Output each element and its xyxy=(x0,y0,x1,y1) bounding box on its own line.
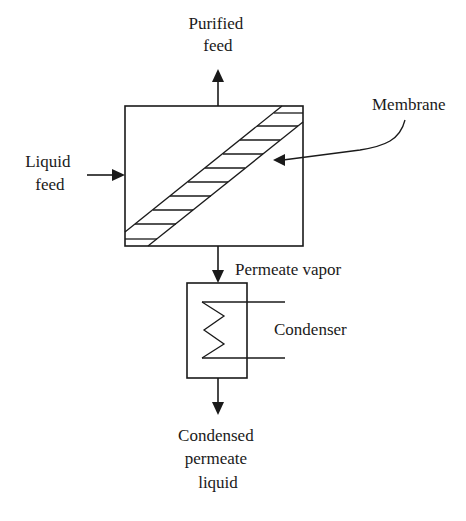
purified-feed-arrow xyxy=(212,69,224,106)
arrowhead-up-icon xyxy=(212,69,224,82)
membrane-band xyxy=(125,106,303,246)
liquid-feed-label: Liquid feed xyxy=(25,152,75,194)
condenser-label: Condenser xyxy=(274,320,347,339)
arrowhead-down-icon xyxy=(212,270,224,283)
arrowhead-left-icon xyxy=(273,154,285,166)
condenser-coil-icon xyxy=(202,302,285,358)
permeate-vapor-label: Permeate vapor xyxy=(235,260,342,279)
liquid-feed-arrow xyxy=(87,169,125,181)
condensed-liquid-arrow xyxy=(212,378,224,415)
condenser-box xyxy=(187,283,247,378)
permeate-vapor-arrow xyxy=(212,246,224,283)
membrane-module-box xyxy=(125,106,303,246)
pervaporation-diagram: Purified feed Liquid feed Membrane xyxy=(0,0,466,521)
membrane-label: Membrane xyxy=(372,95,446,114)
condensed-permeate-liquid-label: Condensed permeate liquid xyxy=(178,426,258,492)
purified-feed-label: Purified feed xyxy=(188,14,247,55)
arrowhead-right-icon xyxy=(112,169,125,181)
membrane-pointer xyxy=(273,120,405,166)
arrowhead-down-icon xyxy=(212,402,224,415)
